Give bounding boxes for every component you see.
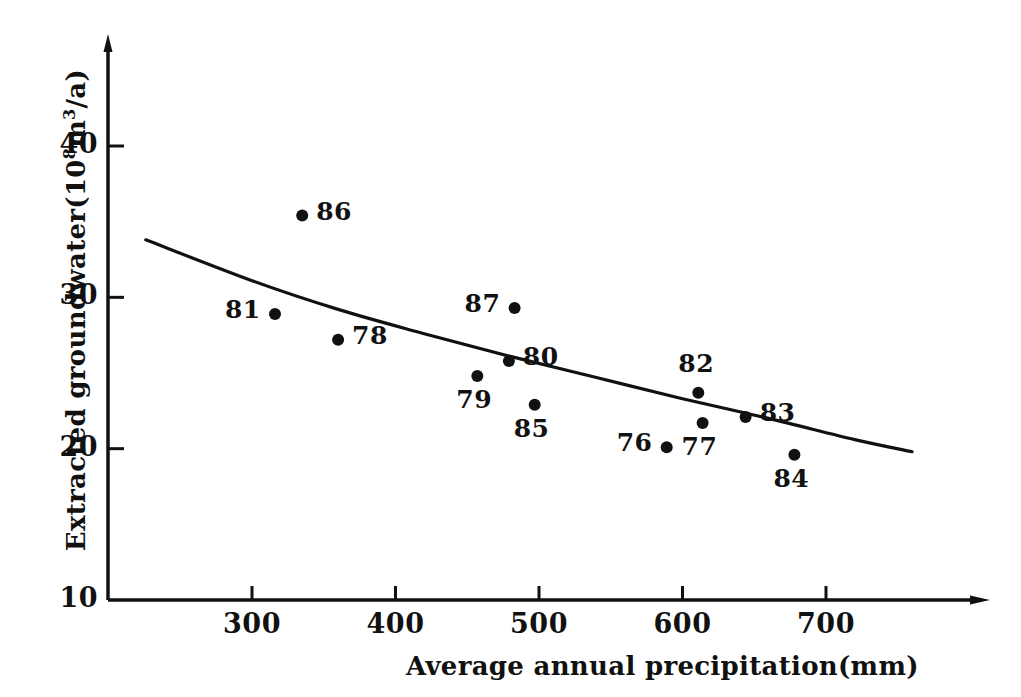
data-point[interactable] xyxy=(692,387,704,399)
x-axis-tick-label: 400 xyxy=(356,608,436,639)
data-point[interactable] xyxy=(332,334,344,346)
data-point[interactable] xyxy=(661,441,673,453)
y-axis-title-exponent-3: 3 xyxy=(60,108,79,120)
y-axis-title: Extracted groundwater(108m3/a) xyxy=(61,60,91,560)
data-point-label: 80 xyxy=(523,342,559,371)
data-point[interactable] xyxy=(296,210,308,222)
data-point-label: 77 xyxy=(682,432,718,461)
data-point-label: 84 xyxy=(773,464,809,493)
data-point-label: 82 xyxy=(678,349,714,378)
data-point[interactable] xyxy=(503,355,515,367)
axis-ticks-group xyxy=(108,146,826,600)
data-point-label: 85 xyxy=(514,414,550,443)
scatter-plot-canvas xyxy=(0,0,1021,697)
y-axis-title-exponent-8: 8 xyxy=(60,148,79,160)
data-point-label: 83 xyxy=(760,398,796,427)
data-point-label: 78 xyxy=(352,321,388,350)
y-axis-title-prefix: Extracted groundwater(10 xyxy=(61,159,91,551)
data-point-label: 76 xyxy=(617,428,653,457)
data-point[interactable] xyxy=(509,302,521,314)
y-axis-title-suffix: /a) xyxy=(61,69,91,109)
y-axis-tick-label: 10 xyxy=(3,582,98,613)
data-point[interactable] xyxy=(471,370,483,382)
x-axis-arrow-icon xyxy=(970,596,990,605)
data-point[interactable] xyxy=(740,411,752,423)
data-point-label: 81 xyxy=(225,295,261,324)
data-point-label: 87 xyxy=(465,289,501,318)
chart-figure: 30040050060070010203040 8681788780798582… xyxy=(0,0,1021,697)
x-axis-tick-label: 600 xyxy=(643,608,723,639)
data-point[interactable] xyxy=(269,308,281,320)
x-axis-title: Average annual precipitation(mm) xyxy=(406,651,919,681)
x-axis-tick-label: 500 xyxy=(499,608,579,639)
y-axis-title-unit-m: m xyxy=(61,120,91,148)
data-point[interactable] xyxy=(529,399,541,411)
data-point[interactable] xyxy=(697,417,709,429)
data-point[interactable] xyxy=(788,449,800,461)
y-axis-arrow-icon xyxy=(104,34,113,52)
data-point-label: 79 xyxy=(456,385,492,414)
x-axis-tick-label: 700 xyxy=(786,608,866,639)
data-point-label: 86 xyxy=(316,197,352,226)
x-axis-tick-label: 300 xyxy=(212,608,292,639)
